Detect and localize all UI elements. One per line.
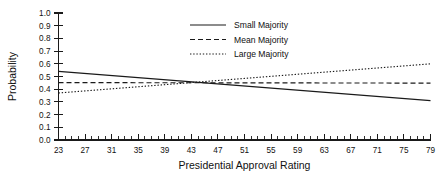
x-tick-labels: 232731353943475155596367717579 xyxy=(54,146,436,155)
y-tick-label: 1.0 xyxy=(39,9,51,18)
y-tick-label: 0.3 xyxy=(39,98,51,107)
x-tick-label: 47 xyxy=(213,146,223,155)
x-tick-label: 27 xyxy=(81,146,91,155)
y-tick-label: 0.5 xyxy=(39,73,51,82)
series-line-small-majority xyxy=(59,71,431,100)
y-axis-group: 0.00.10.20.30.40.50.60.70.80.91.0 Probab… xyxy=(6,9,63,145)
y-tick-label: 0.4 xyxy=(39,85,51,94)
x-tick-marks xyxy=(59,134,431,141)
x-tick-label: 79 xyxy=(426,146,436,155)
y-tick-label: 0.7 xyxy=(39,47,51,56)
y-axis-title: Probability xyxy=(6,51,18,101)
x-tick-label: 43 xyxy=(187,146,197,155)
x-tick-label: 67 xyxy=(346,146,356,155)
x-tick-label: 75 xyxy=(399,146,409,155)
legend-label: Large Majority xyxy=(234,49,289,59)
x-tick-label: 51 xyxy=(240,146,250,155)
x-tick-label: 63 xyxy=(320,146,330,155)
x-tick-label: 23 xyxy=(54,146,64,155)
x-axis-group: 232731353943475155596367717579 President… xyxy=(54,134,436,172)
y-tick-labels: 0.00.10.20.30.40.50.60.70.80.91.0 xyxy=(39,9,51,145)
chart-canvas: 0.00.10.20.30.40.50.60.70.80.91.0 Probab… xyxy=(0,0,447,187)
y-tick-label: 0.9 xyxy=(39,22,51,31)
series-lines xyxy=(59,64,431,101)
y-tick-label: 0.0 xyxy=(39,136,51,145)
x-tick-label: 59 xyxy=(293,146,303,155)
y-tick-label: 0.1 xyxy=(39,123,51,132)
series-line-large-majority xyxy=(59,64,431,93)
x-axis-title: Presidential Approval Rating xyxy=(179,159,311,171)
x-tick-label: 71 xyxy=(373,146,383,155)
chart-legend: Small MajorityMean MajorityLarge Majorit… xyxy=(190,20,289,59)
x-tick-label: 35 xyxy=(134,146,144,155)
legend-label: Mean Majority xyxy=(234,35,289,45)
y-tick-label: 0.2 xyxy=(39,111,51,120)
series-line-mean-majority xyxy=(59,83,431,84)
x-tick-label: 55 xyxy=(267,146,277,155)
x-tick-label: 31 xyxy=(107,146,117,155)
y-tick-label: 0.8 xyxy=(39,34,51,43)
legend-label: Small Majority xyxy=(234,20,289,30)
chart-figure: 0.00.10.20.30.40.50.60.70.80.91.0 Probab… xyxy=(0,0,447,187)
x-tick-label: 39 xyxy=(160,146,170,155)
y-tick-label: 0.6 xyxy=(39,60,51,69)
